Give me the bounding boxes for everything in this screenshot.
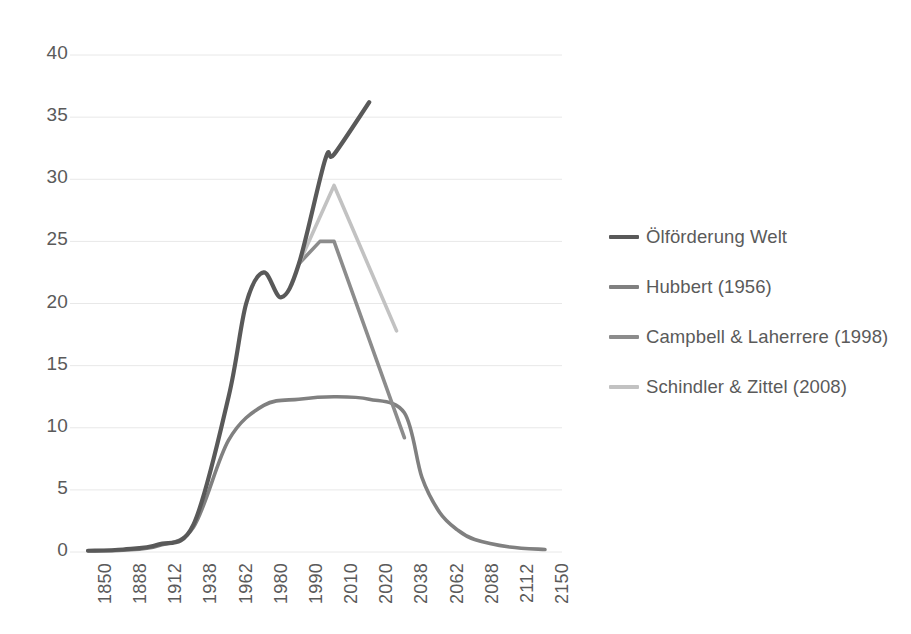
y-axis-tick-label: 10 xyxy=(22,415,68,437)
x-axis-tick-label: 2150 xyxy=(552,563,573,604)
x-axis-tick-label: 2010 xyxy=(341,563,362,604)
x-axis-tick-label: 2020 xyxy=(376,563,397,604)
legend-item[interactable]: Campbell & Laherrere (1998) xyxy=(609,312,905,362)
y-axis-tick-label: 40 xyxy=(22,42,68,64)
oil-production-line-chart: 4035302520151050 18501888191219381962198… xyxy=(0,0,911,634)
series-line xyxy=(88,102,369,551)
legend-item-label: Schindler & Zittel (2008) xyxy=(646,376,847,398)
y-axis-tick-label: 35 xyxy=(22,104,68,126)
chart-legend: Ölförderung WeltHubbert (1956)Campbell &… xyxy=(609,212,905,412)
legend-item[interactable]: Hubbert (1956) xyxy=(609,262,905,312)
series-line xyxy=(299,241,404,437)
y-axis-tick-label: 15 xyxy=(22,353,68,375)
legend-color-swatch xyxy=(609,285,639,289)
x-axis-tick-label: 1938 xyxy=(200,563,221,604)
x-axis-tick-label: 1850 xyxy=(95,563,116,604)
x-axis-tick-label: 1888 xyxy=(130,563,151,604)
legend-item-label: Ölförderung Welt xyxy=(646,226,787,248)
legend-item[interactable]: Ölförderung Welt xyxy=(609,212,905,262)
x-axis-tick-label: 2112 xyxy=(517,563,538,603)
gridlines xyxy=(70,55,562,552)
y-axis-tick-label: 30 xyxy=(22,166,68,188)
x-axis-tick-label: 2038 xyxy=(411,563,432,604)
series-paths xyxy=(88,102,545,551)
x-axis-tick-label: 1980 xyxy=(271,563,292,604)
y-axis-tick-label: 0 xyxy=(22,539,68,561)
legend-item-label: Hubbert (1956) xyxy=(646,276,772,298)
y-axis-tick-label: 20 xyxy=(22,291,68,313)
y-axis-tick-label: 5 xyxy=(22,477,68,499)
legend-color-swatch xyxy=(609,235,639,239)
x-axis-tick-label: 1962 xyxy=(236,563,257,604)
y-axis-tick-label: 25 xyxy=(22,228,68,250)
series-line xyxy=(88,397,545,551)
legend-color-swatch xyxy=(609,335,639,339)
x-axis-tick-label: 1990 xyxy=(306,563,327,604)
x-axis-tick-label: 2088 xyxy=(482,563,503,604)
legend-item[interactable]: Schindler & Zittel (2008) xyxy=(609,362,905,412)
legend-item-label: Campbell & Laherrere (1998) xyxy=(646,326,888,348)
x-axis-tick-label: 2062 xyxy=(447,563,468,604)
x-axis-tick-label: 1912 xyxy=(165,563,186,604)
legend-color-swatch xyxy=(609,385,639,389)
